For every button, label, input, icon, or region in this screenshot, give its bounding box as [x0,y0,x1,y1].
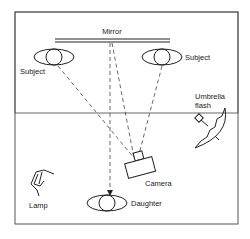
mirror-label: Mirror [102,27,122,36]
subject-left-label: Subject [20,67,46,76]
daughter-label: Daughter [131,199,162,208]
umbrella-flash-label-line2: flash [195,101,211,110]
daughter-icon [87,195,127,211]
lamp-icon [31,170,54,196]
mirror [55,39,170,42]
camera-icon [125,151,156,179]
subject-right-icon [142,49,182,65]
umbrella-flash-icon [195,108,226,148]
umbrella-flash-label-line1: Umbrella [195,92,226,101]
lamp-label: Lamp [29,201,48,210]
camera-label: Camera [145,179,173,188]
subject-right-label: Subject [185,53,211,62]
subject-left-icon [34,49,74,65]
diagram-canvas: Mirror Subject Subject Camera Daughter [0,0,250,239]
diagram-frame [15,12,238,224]
